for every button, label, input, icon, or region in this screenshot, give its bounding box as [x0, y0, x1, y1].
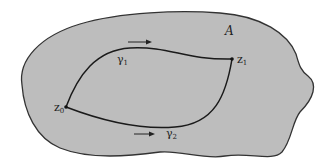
point-z0 — [64, 105, 68, 109]
point-z1 — [230, 57, 234, 61]
contour-diagram: A γ1 γ2 z0 z1 — [0, 0, 331, 168]
region-label: A — [224, 24, 234, 38]
